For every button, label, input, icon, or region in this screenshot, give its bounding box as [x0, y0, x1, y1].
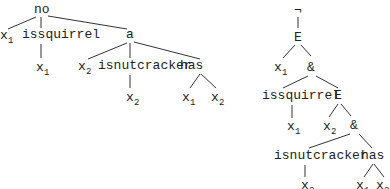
node-x1: x [36, 60, 44, 75]
node-x1: x [274, 60, 282, 75]
tree-diagrams: no x 1 issquirrel x 1 a x 2 isnutcracker… [0, 0, 390, 189]
right-tree: ¬ E x 1 & issquirrel x 1 E x 2 & isnutcr… [262, 3, 389, 189]
node-x2-sub: 2 [309, 186, 314, 189]
node-no: no [34, 2, 50, 17]
node-x1-sub: 1 [8, 36, 13, 46]
node-a: a [126, 27, 134, 42]
edge [341, 104, 351, 116]
edge [201, 74, 216, 88]
node-has: has [180, 58, 203, 73]
node-x1-sub: 1 [44, 68, 49, 78]
edge [329, 104, 338, 117]
node-has: has [361, 148, 384, 163]
node-x2-sub: 2 [219, 98, 224, 108]
edge [309, 134, 350, 148]
node-x1-sub: 1 [295, 127, 300, 137]
edge [316, 76, 338, 88]
node-x1: x [287, 119, 295, 134]
node-x1-sub: 1 [364, 186, 369, 189]
node-x2: x [323, 119, 331, 134]
node-x2: x [126, 90, 134, 105]
left-tree: no x 1 issquirrel x 1 a x 2 isnutcracker… [0, 2, 224, 108]
node-x2: x [211, 90, 219, 105]
node-x2-sub: 2 [331, 127, 336, 137]
node-issquirrel: issquirrel [22, 27, 100, 42]
node-x1-sub: 1 [282, 68, 287, 78]
node-isnutcracker: isnutcracker [98, 58, 192, 73]
edge [364, 164, 373, 177]
node-and: & [350, 118, 358, 133]
node-x1-sub: 1 [190, 98, 195, 108]
edge [190, 74, 200, 88]
edge [374, 164, 384, 177]
edge [283, 45, 295, 58]
edge [301, 45, 311, 56]
node-x2: x [376, 178, 384, 189]
node-x2: x [78, 59, 86, 74]
node-exists: E [294, 30, 302, 45]
node-x1: x [356, 178, 364, 189]
node-x1: x [182, 90, 190, 105]
node-issquirrel: issquirrel [262, 88, 340, 103]
edge [359, 134, 372, 148]
node-x1: x [0, 28, 8, 43]
node-x2-sub: 2 [384, 186, 389, 189]
node-x2-sub: 2 [134, 98, 139, 108]
node-x2-sub: 2 [86, 67, 91, 77]
node-exists: E [334, 88, 342, 103]
node-isnutcracker: isnutcracker [274, 148, 368, 163]
node-and: & [307, 60, 315, 75]
node-negation: ¬ [294, 3, 302, 18]
edge [134, 42, 200, 59]
node-x2: x [301, 178, 309, 189]
edge [88, 43, 127, 59]
